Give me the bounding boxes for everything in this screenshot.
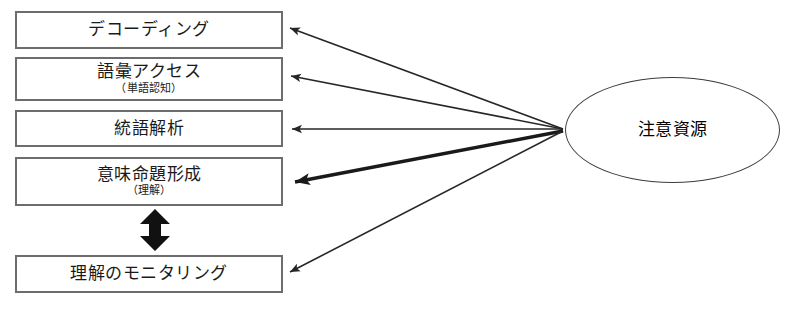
- process-label: デコーディング: [88, 20, 210, 40]
- arrow-resource-to-decoding: [290, 28, 563, 129]
- resource-label: 注意資源: [638, 120, 708, 140]
- arrow-proposition-monitoring-bidirectional: [133, 208, 177, 252]
- arrow-resource-to-comprehension-monitoring: [290, 131, 563, 272]
- process-sublabel: （単語認知）: [115, 83, 182, 96]
- attentional-resource-ellipse: 注意資源: [565, 77, 780, 183]
- process-box-lexical-access: 語彙アクセス （単語認知）: [15, 57, 283, 101]
- arrow-resource-to-lexical-access: [291, 76, 563, 129]
- process-label: 語彙アクセス: [97, 62, 201, 82]
- diagram-canvas: デコーディング 語彙アクセス （単語認知） 統語解析 意味命題形成 （理解） 理…: [0, 0, 793, 310]
- process-box-syntactic-parsing: 統語解析: [15, 110, 283, 147]
- process-box-comprehension-monitoring: 理解のモニタリング: [15, 255, 283, 293]
- process-box-proposition-formation: 意味命題形成 （理解）: [15, 157, 283, 206]
- arrow-resource-to-proposition-formation: [295, 131, 563, 182]
- process-label: 意味命題形成: [97, 165, 202, 185]
- double-headed-arrow-icon: [140, 209, 170, 251]
- process-label: 統語解析: [114, 119, 184, 139]
- process-label: 理解のモニタリング: [70, 264, 228, 284]
- process-sublabel: （理解）: [127, 185, 172, 198]
- process-box-decoding: デコーディング: [15, 11, 283, 49]
